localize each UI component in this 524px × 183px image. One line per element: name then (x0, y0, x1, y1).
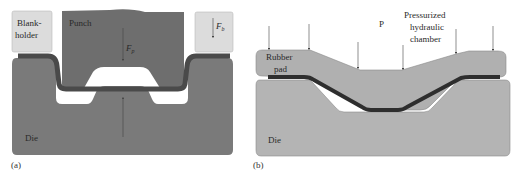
force-punch-subscript: p (131, 48, 135, 54)
panel-a: Blank- holder Punch Die Fp Fb (a) (11, 9, 233, 170)
rubber-pad-label-line2: pad (274, 64, 287, 74)
punch-label: Punch (69, 18, 92, 28)
forming-process-diagram: Blank- holder Punch Die Fp Fb (a) Rubber… (0, 0, 524, 183)
blankholder-right (195, 12, 233, 52)
chamber-label-line3: chamber (410, 34, 441, 44)
pressure-label: P (379, 19, 384, 29)
die-a (12, 58, 233, 155)
force-blankholder-subscript: b (222, 26, 225, 32)
blankholder-label-line1: Blank- (17, 18, 42, 28)
die-label-b: Die (268, 135, 281, 145)
die-label-a: Die (25, 133, 38, 143)
panel-b-caption: (b) (253, 160, 264, 170)
rubber-pad-label-line1: Rubber (266, 52, 293, 62)
panel-b: Rubber pad P Pressurized hydraulic chamb… (253, 10, 510, 170)
chamber-label-line1: Pressurized (404, 10, 446, 20)
panel-a-caption: (a) (11, 160, 21, 170)
blankholder-label-line2: holder (15, 30, 38, 40)
chamber-label-line2: hydraulic (410, 22, 444, 32)
